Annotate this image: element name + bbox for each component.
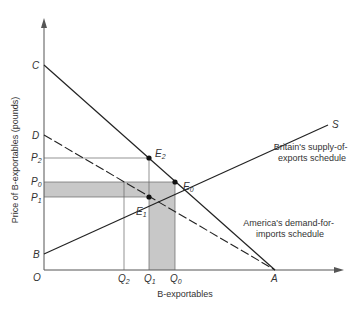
label-a: A (270, 273, 278, 284)
label-origin: O (33, 272, 41, 283)
point-e2 (146, 155, 151, 160)
label-s: S (332, 119, 339, 130)
shaded-quantity-band (149, 182, 175, 270)
point-e0 (172, 179, 177, 184)
trade-diagram: Price of B-exportables (pounds) B-export… (0, 0, 355, 312)
y-axis-arrow-icon (41, 18, 47, 28)
label-p2: P2 (31, 152, 42, 164)
label-e2: E2 (155, 148, 166, 160)
point-e1 (146, 194, 151, 199)
demand-annotation: America's demand-for- imports schedule (243, 218, 336, 239)
label-p1: P1 (31, 192, 42, 204)
label-b: B (33, 249, 40, 260)
x-axis-label: B-exportables (157, 289, 213, 299)
label-e0: E0 (183, 181, 194, 193)
label-q1: Q1 (144, 273, 156, 285)
x-axis-arrow-icon (334, 267, 344, 273)
label-q0: Q0 (170, 273, 182, 285)
label-q2: Q2 (118, 273, 130, 285)
label-c: C (32, 60, 40, 71)
y-axis-label: Price of B-exportables (pounds) (10, 97, 20, 224)
label-d: D (32, 130, 39, 141)
supply-annotation: Britain's supply-of- exports schedule (274, 142, 350, 163)
label-p0: P0 (31, 176, 42, 188)
